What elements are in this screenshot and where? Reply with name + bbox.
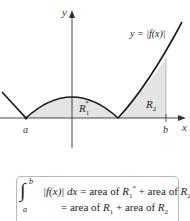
y-axis-label: y [61,6,67,18]
formula-line-1: |f(x)| dx = area of R1* + area of R2 [43,184,190,200]
a-label: a [23,124,28,135]
curve-label: y = |f(x)| [129,28,166,40]
shaded-area [26,58,166,118]
integrand: |f(x)| dx [43,185,77,197]
formula-line-2: = area of R1 + area of R2 [61,201,168,216]
point-a-dot [25,117,28,120]
integral-sign: ∫ [20,180,25,200]
graph-figure: y x a b y = |f(x)| R1* R2 [0,0,190,175]
x-axis-label: x [181,121,187,133]
lower-limit: a [23,205,27,214]
formula-box: ∫ b a |f(x)| dx = area of R1* + area of … [16,176,179,221]
b-label: b [163,124,168,135]
upper-limit: b [29,177,33,186]
y-axis-arrow-icon [69,10,75,18]
